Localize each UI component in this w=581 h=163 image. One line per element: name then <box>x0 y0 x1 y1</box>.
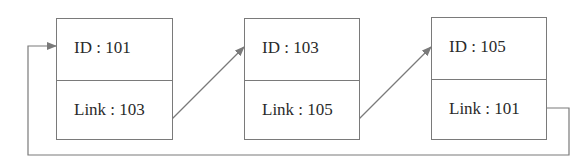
node-105: ID : 105 Link : 101 <box>431 17 547 140</box>
node-link-field: Link : 105 <box>245 81 359 139</box>
node-101: ID : 101 Link : 103 <box>56 18 173 140</box>
node-103: ID : 103 Link : 105 <box>244 18 360 140</box>
node-link-field: Link : 101 <box>432 80 546 139</box>
node-id-field: ID : 103 <box>245 19 359 81</box>
node-id-field: ID : 105 <box>432 18 546 80</box>
node-link-field: Link : 103 <box>57 81 172 139</box>
node-id-field: ID : 101 <box>57 19 172 81</box>
arrow-101-to-103 <box>172 47 244 119</box>
arrow-103-to-105 <box>359 47 431 119</box>
